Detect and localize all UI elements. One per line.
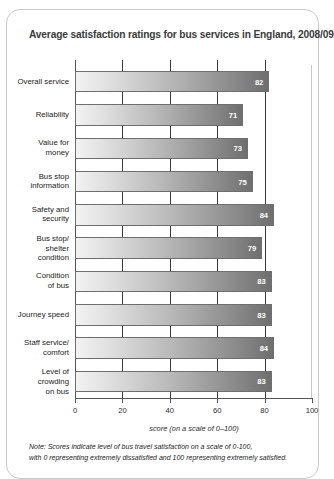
x-tick-60 [217, 398, 218, 403]
bar-category-label: Bus stop information [0, 172, 69, 191]
bar-value-label: 75 [238, 177, 246, 186]
bar: 73 [75, 138, 248, 160]
x-tick-80 [265, 398, 266, 403]
bar: 83 [75, 304, 272, 326]
bar-value-label: 73 [234, 144, 242, 153]
x-tick-label-0: 0 [73, 406, 77, 415]
x-tick-label-20: 20 [118, 406, 126, 415]
footnote-line-1: Note: Scores indicate level of bus trave… [29, 442, 319, 453]
bar-value-label: 82 [255, 77, 263, 86]
x-axis-label: score (on a scale of 0–100) [75, 424, 313, 433]
bar-value-label: 83 [257, 310, 265, 319]
bar-category-label: Bus stop/ shelter condition [0, 234, 69, 263]
bar-value-label: 79 [248, 244, 256, 253]
footnote-line-2: with 0 representing extremely dissatisfi… [29, 453, 319, 464]
bar-row: Level of crowding on bus83 [75, 371, 312, 393]
bar-value-label: 71 [229, 110, 237, 119]
bar-value-label: 84 [260, 344, 268, 353]
bar-value-label: 83 [257, 277, 265, 286]
chart-footnote: Note: Scores indicate level of bus trave… [29, 442, 319, 463]
bar-row: Condition of bus83 [75, 271, 312, 293]
bar: 75 [75, 171, 253, 193]
x-axis-line [75, 398, 313, 399]
chart-title: Average satisfaction ratings for bus ser… [29, 29, 319, 40]
x-tick-label-60: 60 [213, 406, 221, 415]
x-tick-40 [170, 398, 171, 403]
bar-row: Value for money73 [75, 138, 312, 160]
chart-panel: Average satisfaction ratings for bus ser… [6, 9, 319, 479]
bar-value-label: 84 [260, 210, 268, 219]
bar: 84 [75, 204, 274, 226]
x-tick-20 [122, 398, 123, 403]
x-tick-label-40: 40 [166, 406, 174, 415]
bar-row: Bus stop/ shelter condition79 [75, 237, 312, 259]
bar-value-label: 83 [257, 377, 265, 386]
bar-row: Bus stop information75 [75, 171, 312, 193]
bar: 79 [75, 237, 262, 259]
bar-row: Staff service/ comfort84 [75, 337, 312, 359]
bar: 71 [75, 104, 243, 126]
x-tick-label-100: 100 [306, 406, 319, 415]
bar: 82 [75, 71, 269, 93]
x-tick-100 [312, 398, 313, 403]
bar-row: Safety and security84 [75, 204, 312, 226]
bar-category-label: Value for money [0, 139, 69, 158]
bar: 83 [75, 371, 272, 393]
bar-category-label: Overall service [0, 77, 69, 87]
bar-category-label: Journey speed [0, 310, 69, 320]
plot-area: Overall service82Reliability71Value for … [75, 65, 312, 398]
bar-category-label: Condition of bus [0, 272, 69, 291]
bar-row: Journey speed83 [75, 304, 312, 326]
x-tick-label-80: 80 [260, 406, 268, 415]
x-tick-0 [75, 398, 76, 403]
bar: 84 [75, 337, 274, 359]
bar-row: Reliability71 [75, 104, 312, 126]
bar-category-label: Staff service/ comfort [0, 338, 69, 357]
bar-category-label: Level of crowding on bus [0, 367, 69, 396]
bar-row: Overall service82 [75, 71, 312, 93]
bar-category-label: Safety and security [0, 205, 69, 224]
bar-category-label: Reliability [0, 110, 69, 120]
bar: 83 [75, 271, 272, 293]
